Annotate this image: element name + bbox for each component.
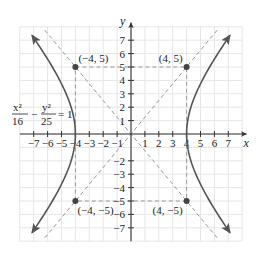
y-tick-label: −7 xyxy=(113,222,125,234)
x-tick-label: 5 xyxy=(198,137,204,149)
x-tick-label: −3 xyxy=(83,137,95,149)
equation-term2-numerator: y² xyxy=(42,101,52,113)
y-tick-label: 4 xyxy=(120,74,126,86)
equation-rhs: = 1 xyxy=(58,108,72,120)
y-tick-label: −6 xyxy=(113,208,125,220)
x-tick-label: −5 xyxy=(56,137,68,149)
equation-term1-denominator: 16 xyxy=(12,115,24,127)
y-axis-label: y xyxy=(119,14,126,28)
y-tick-label: 1 xyxy=(120,115,126,127)
equation-minus: − xyxy=(31,108,37,120)
x-tick-label: 2 xyxy=(156,137,162,149)
corner-point xyxy=(184,64,190,70)
x-tick-label: −6 xyxy=(42,137,54,149)
y-tick-label: 6 xyxy=(120,48,126,60)
x-tick-label: 3 xyxy=(170,137,176,149)
y-tick-label: −4 xyxy=(113,182,125,194)
x-axis-label: x xyxy=(243,136,250,150)
corner-point xyxy=(184,198,190,204)
y-tick-label: −3 xyxy=(113,168,125,180)
chart-canvas: −7−6−5−4−3−2−112345677654321−2−3−4−5−6−7… xyxy=(0,0,262,253)
x-tick-label: 1 xyxy=(142,137,148,149)
y-tick-label: 3 xyxy=(120,88,126,100)
x-tick-label: −2 xyxy=(97,137,109,149)
equation-term1-numerator: x² xyxy=(13,101,23,113)
point-label: (4, −5) xyxy=(153,204,183,217)
x-tick-label: −7 xyxy=(28,137,40,149)
x-tick-label: 7 xyxy=(226,137,232,149)
equation-label: x² 16 − y² 25 = 1 xyxy=(12,101,72,127)
point-label: (−4, 5) xyxy=(78,52,108,65)
x-tick-label: −1 xyxy=(111,137,123,149)
y-tick-label: −2 xyxy=(113,155,125,167)
x-tick-label: 6 xyxy=(212,137,218,149)
y-tick-label: 5 xyxy=(120,61,126,73)
point-label: (−4, −5) xyxy=(77,204,114,217)
hyperbola-figure: −7−6−5−4−3−2−112345677654321−2−3−4−5−6−7… xyxy=(0,0,262,253)
equation-term2-denominator: 25 xyxy=(41,115,53,127)
y-tick-label: 7 xyxy=(120,34,126,46)
y-tick-label: 2 xyxy=(120,101,126,113)
corner-point xyxy=(72,64,78,70)
point-label: (4, 5) xyxy=(159,52,183,65)
y-tick-label: −5 xyxy=(113,195,125,207)
axes xyxy=(20,23,247,241)
